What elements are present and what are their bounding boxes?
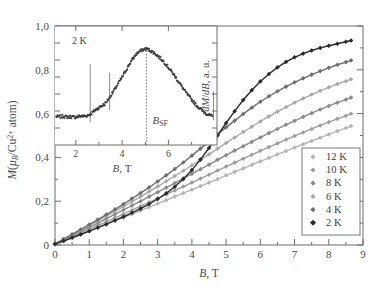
main-ytick-4: 0,8 — [35, 64, 49, 76]
inset-y-axis-label: dM/dB, a. u. — [200, 60, 211, 112]
legend-item-label: 4 K — [326, 204, 342, 215]
main-ytick-0: 0 — [44, 239, 50, 251]
inset-x-axis-label: B, T — [113, 162, 132, 174]
legend-item-label: 10 K — [326, 164, 347, 175]
main-xtick-1: 1 — [86, 248, 92, 260]
main-xtick-8: 8 — [326, 248, 332, 260]
main-xtick-7: 7 — [292, 248, 298, 260]
main-xtick-5: 5 — [223, 248, 229, 260]
inset-xtick-6: 6 — [166, 148, 171, 159]
figure-container: 0 1 2 3 4 5 6 7 8 9 — [0, 0, 376, 287]
main-y-axis-label: M(μB/Cu2+ atom) — [6, 100, 20, 180]
main-xtick-6: 6 — [258, 248, 264, 260]
main-xtick-2: 2 — [121, 248, 127, 260]
legend[interactable]: 12 K10 K8 K6 K4 K2 K — [302, 148, 360, 235]
main-ytick-3: 0,6 — [35, 108, 49, 120]
inset-temperature-label: 2 K — [72, 35, 88, 46]
main-x-axis-label: B, T — [199, 267, 219, 280]
main-ytick-1: 0,2 — [35, 195, 49, 207]
legend-item-label: 12 K — [326, 151, 347, 162]
legend-item-label: 6 K — [326, 191, 342, 202]
main-xtick-3: 3 — [155, 248, 161, 260]
inset-xtick-4: 4 — [120, 148, 125, 159]
inset-xtick-2: 2 — [73, 148, 78, 159]
main-xtick-0: 0 — [52, 248, 58, 260]
main-ytick-2: 0,4 — [35, 151, 49, 163]
legend-item-label: 8 K — [326, 177, 342, 188]
main-ytick-5: 1,0 — [35, 20, 49, 32]
main-xtick-4: 4 — [189, 248, 195, 260]
main-xtick-9: 9 — [360, 248, 366, 260]
legend-item-label: 2 K — [326, 217, 342, 228]
chart-svg: 0 1 2 3 4 5 6 7 8 9 — [0, 0, 376, 287]
